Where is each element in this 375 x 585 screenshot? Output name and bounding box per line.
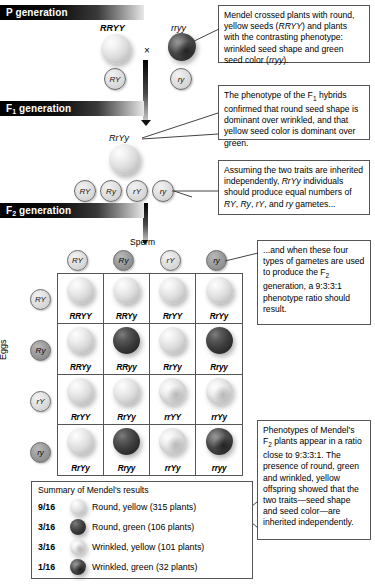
wrinkled-yellow-seed-icon — [206, 378, 233, 405]
round-green-seed-icon — [113, 428, 140, 455]
punnett-cell-genotype: RrYy — [163, 363, 181, 372]
sperm-gamete-0: RY — [67, 250, 88, 271]
sperm-gamete-3: ry — [206, 250, 227, 271]
summary-row: 9/16Round, yellow (315 plants) — [38, 497, 247, 517]
egg-gamete-0: RY — [30, 289, 51, 310]
banner-p-generation: P generation — [0, 5, 144, 20]
punnett-cell-genotype: RrYy — [210, 312, 228, 321]
banner-f1-suffix: generation — [16, 103, 71, 114]
sperm-gamete-2: rY — [160, 250, 181, 271]
round-green-seed-icon — [113, 327, 140, 354]
cross-symbol: × — [144, 45, 150, 56]
punnett-square: RRYYRRYyRrYYRrYyRRYyRRyyRrYyRryyRrYYRrYy… — [57, 273, 243, 476]
summary-row: 3/16Round, green (106 plants) — [38, 517, 247, 537]
punnett-cell-1-0: RRYy — [58, 324, 104, 374]
egg-gamete-1: Ry — [30, 340, 51, 361]
callout-3-connector — [172, 185, 220, 199]
punnett-cell-0-2: RrYY — [150, 274, 196, 324]
sperm-gamete-1-label: Ry — [119, 256, 129, 265]
punnett-cell-1-3: Rryy — [196, 324, 242, 374]
round-yellow-seed-icon — [67, 428, 94, 455]
sperm-gamete-1: Ry — [113, 250, 134, 271]
p-parent1-genotype: RRYY — [100, 23, 125, 33]
f1-gamete-2-label: rY — [133, 187, 141, 196]
p-parent2-gamete: ry — [170, 68, 192, 90]
callout-box-2: The phenotype of the F1 hybrids confirme… — [218, 85, 370, 140]
banner-f1-label: F1 generation — [6, 103, 71, 114]
round-yellow-seed-icon — [113, 378, 140, 405]
punnett-cell-1-1: RRyy — [104, 324, 150, 374]
round-green-seed-icon — [70, 519, 86, 535]
callout-box-5: Phenotypes of Mendel's F2 plants appear … — [257, 420, 371, 540]
punnett-cell-3-0: RrYy — [58, 425, 104, 475]
callout-2-connector — [137, 112, 219, 140]
punnett-cell-0-0: RRYY — [58, 274, 104, 324]
p-parent1-gamete: RY — [104, 68, 126, 90]
banner-f2-label: F2 generation — [6, 205, 71, 216]
round-yellow-seed-icon — [159, 327, 186, 354]
summary-box: Summary of Mendel's results 9/16Round, y… — [31, 481, 253, 579]
round-yellow-seed-icon — [113, 277, 140, 304]
banner-f2-suffix: generation — [16, 205, 71, 216]
punnett-cell-2-1: RrYy — [104, 375, 150, 425]
f1-genotype: RrYy — [109, 133, 129, 143]
wrinkled-green-seed-icon — [70, 559, 86, 575]
banner-f2-sub: 2 — [12, 210, 16, 217]
summary-fraction: 3/16 — [38, 542, 70, 552]
punnett-cell-genotype: RrYY — [163, 312, 182, 321]
callout-4-connector — [225, 252, 259, 268]
punnett-cell-1-2: RrYy — [150, 324, 196, 374]
round-yellow-seed-icon — [159, 277, 186, 304]
wrinkled-yellow-seed-icon — [159, 428, 186, 455]
punnett-cell-genotype: rrYy — [165, 464, 181, 473]
punnett-cell-2-2: rrYY — [150, 375, 196, 425]
egg-gamete-2-label: rY — [37, 397, 45, 406]
summary-row: 1/16Wrinkled, green (32 plants) — [38, 557, 247, 577]
p-parent1-gamete-label: RY — [110, 75, 121, 84]
callout-box-4: ...and when these four types of gametes … — [257, 240, 371, 325]
punnett-cell-genotype: RrYy — [71, 464, 89, 473]
callout-3-text: Assuming the two traits are inherited in… — [224, 165, 363, 209]
round-green-seed-icon — [206, 327, 233, 354]
punnett-cell-genotype: RRYy — [116, 312, 137, 321]
callout-4-text: ...and when these four types of gametes … — [263, 245, 364, 314]
summary-title: Summary of Mendel's results — [38, 485, 247, 495]
sperm-gamete-3-label: ry — [213, 256, 220, 265]
callout-box-1: Mendel crossed plants with round, yellow… — [218, 5, 370, 63]
f1-gamete-0: RY — [74, 180, 96, 202]
punnett-cell-genotype: RrYy — [117, 413, 135, 422]
summary-rows: 9/16Round, yellow (315 plants)3/16Round,… — [38, 497, 247, 577]
f1-gamete-1: Ry — [100, 180, 122, 202]
punnett-cell-2-3: rrYy — [196, 375, 242, 425]
banner-f2-generation: F2 generation — [0, 203, 144, 218]
summary-row: 3/16Wrinkled, yellow (101 plants) — [38, 537, 247, 557]
summary-description: Round, yellow (315 plants) — [92, 502, 196, 512]
round-yellow-seed-icon — [67, 327, 94, 354]
wrinkled-yellow-seed-icon — [70, 539, 86, 555]
egg-gamete-1-label: Ry — [36, 346, 46, 355]
punnett-cell-genotype: RRYY — [70, 312, 92, 321]
summary-fraction: 3/16 — [38, 522, 70, 532]
f1-gamete-1-label: Ry — [106, 187, 116, 196]
summary-fraction: 1/16 — [38, 562, 70, 572]
punnett-cell-2-0: RrYY — [58, 375, 104, 425]
round-yellow-seed-icon — [206, 277, 233, 304]
banner-f1-generation: F1 generation — [0, 101, 144, 116]
callout-1-connector — [186, 28, 220, 50]
banner-f1-sub: 1 — [12, 108, 16, 115]
summary-description: Wrinkled, green (32 plants) — [92, 562, 197, 572]
banner-p-label: P generation — [6, 7, 68, 18]
summary-fraction: 9/16 — [38, 502, 70, 512]
callout-1-text: Mendel crossed plants with round, yellow… — [224, 10, 354, 65]
callout-2-text: The phenotype of the F1 hybrids confirme… — [224, 90, 358, 148]
punnett-cell-3-3: rryy — [196, 425, 242, 475]
punnett-cell-genotype: rrYY — [164, 413, 181, 422]
egg-gamete-3-label: ry — [37, 448, 44, 457]
round-yellow-seed-icon — [67, 277, 94, 304]
sperm-label: Sperm — [130, 237, 155, 247]
f1-gamete-2: rY — [126, 180, 148, 202]
summary-description: Round, green (106 plants) — [92, 522, 194, 532]
punnett-cell-genotype: Rryy — [118, 464, 135, 473]
summary-description: Wrinkled, yellow (101 plants) — [92, 542, 204, 552]
p-parent2-gamete-label: ry — [178, 75, 185, 84]
